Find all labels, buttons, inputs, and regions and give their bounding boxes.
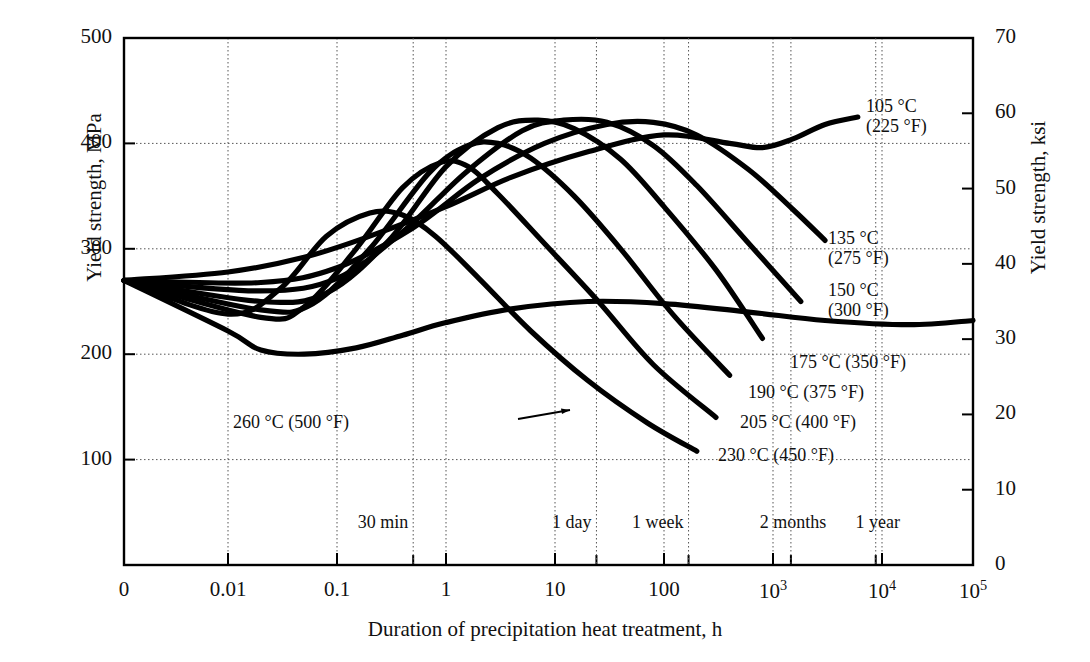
label-175c: 175 °C (350 °F): [790, 352, 906, 372]
x-tick-0: 0: [84, 577, 164, 602]
y-tick-right-60: 60: [995, 99, 1055, 124]
x-tick-7: 104: [842, 577, 922, 604]
y-tick-left-500: 500: [52, 24, 112, 49]
y-tick-left-400: 400: [52, 129, 112, 154]
y-tick-right-50: 50: [995, 175, 1055, 200]
y-axis-left-label: Yield strength, MPa: [82, 98, 107, 298]
label-135c-line1: 135 °C: [828, 228, 889, 248]
y-tick-left-100: 100: [52, 446, 112, 471]
y-tick-right-70: 70: [995, 24, 1055, 49]
y-tick-left-200: 200: [52, 340, 112, 365]
label-260c-line1: 260 °C (500 °F): [233, 412, 349, 432]
label-150c-line2: (300 °F): [828, 300, 889, 320]
x-tick-6: 103: [733, 577, 813, 604]
time-marker-1-year: 1 year: [788, 512, 968, 533]
x-tick-8: 105: [933, 577, 1013, 604]
label-150c: 150 °C(300 °F): [828, 280, 889, 320]
y-tick-right-30: 30: [995, 325, 1055, 350]
label-135c-line2: (275 °F): [828, 248, 889, 268]
y-tick-right-10: 10: [995, 476, 1055, 501]
y-tick-left-300: 300: [52, 235, 112, 260]
label-230c-line1: 230 °C (450 °F): [718, 445, 834, 465]
time-marker-30-min: 30 min: [228, 512, 414, 533]
label-105c: 105 °C(225 °F): [866, 96, 927, 136]
label-175c-line1: 175 °C (350 °F): [790, 352, 906, 372]
label-150c-line1: 150 °C: [828, 280, 889, 300]
x-tick-5: 100: [624, 577, 704, 602]
y-tick-right-20: 20: [995, 400, 1055, 425]
label-190c-line1: 190 °C (375 °F): [748, 382, 864, 402]
x-axis-label: Duration of precipitation heat treatment…: [0, 617, 1090, 642]
y-tick-right-0: 0: [995, 551, 1055, 576]
label-230c: 230 °C (450 °F): [718, 445, 834, 465]
y-tick-right-40: 40: [995, 250, 1055, 275]
x-tick-1: 0.01: [188, 577, 268, 602]
leader-lines: [518, 409, 570, 420]
label-190c: 190 °C (375 °F): [748, 382, 864, 402]
time-marker-1-week: 1 week: [504, 512, 690, 533]
label-205c-line1: 205 °C (400 °F): [740, 412, 856, 432]
label-105c-line1: 105 °C: [866, 96, 927, 116]
label-205c: 205 °C (400 °F): [740, 412, 856, 432]
x-tick-2: 0.1: [297, 577, 377, 602]
x-tick-4: 10: [515, 577, 595, 602]
label-135c: 135 °C(275 °F): [828, 228, 889, 268]
label-105c-line2: (225 °F): [866, 116, 927, 136]
x-tick-3: 1: [406, 577, 486, 602]
label-260c: 260 °C (500 °F): [233, 412, 349, 432]
